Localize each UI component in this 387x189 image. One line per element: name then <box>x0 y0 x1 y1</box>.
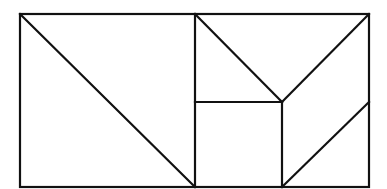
geometric-figure <box>0 0 387 189</box>
left-square-diagonal <box>20 14 195 187</box>
upper-left-diagonal <box>195 14 282 102</box>
dissection-lines <box>20 14 369 187</box>
lower-right-diagonal <box>282 102 369 187</box>
upper-right-diagonal <box>282 14 369 102</box>
